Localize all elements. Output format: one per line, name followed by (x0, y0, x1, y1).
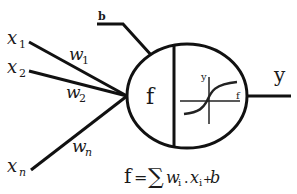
svg-text:=: = (134, 168, 147, 187)
svg-text:2: 2 (19, 67, 26, 80)
svg-text:∑: ∑ (148, 164, 164, 189)
input-label-1: x 1 (7, 27, 26, 51)
input-label-2: x 2 (7, 56, 26, 80)
svg-text:1: 1 (19, 38, 26, 51)
svg-text:i: i (199, 177, 202, 188)
svg-text:x: x (7, 27, 17, 48)
svg-text:i: i (178, 177, 181, 188)
svg-text:x: x (190, 168, 199, 187)
neuron-diagram: y f b f y x 1 x 2 x n w 1 w 2 w n f = ∑ … (0, 0, 297, 194)
input-label-n: x n (7, 155, 26, 179)
svg-text:n: n (85, 146, 92, 159)
svg-text:x: x (7, 56, 17, 77)
output-label: y (273, 63, 286, 87)
svg-text:.: . (184, 170, 188, 186)
bias-line (97, 24, 152, 56)
svg-text:n: n (19, 166, 26, 179)
svg-text:b: b (210, 168, 220, 187)
formula: f = ∑ w i . x i + b (124, 164, 220, 189)
neuron-circle (127, 44, 247, 148)
svg-text:2: 2 (79, 92, 86, 105)
weight-label-1: w 1 (69, 44, 89, 67)
bias-label: b (98, 10, 106, 23)
weight-label-n: w n (72, 136, 92, 159)
svg-text:f: f (124, 164, 133, 188)
svg-text:1: 1 (82, 54, 89, 67)
input-line-n (31, 96, 127, 170)
activation-y-label: y (200, 71, 207, 82)
svg-text:x: x (7, 155, 17, 176)
